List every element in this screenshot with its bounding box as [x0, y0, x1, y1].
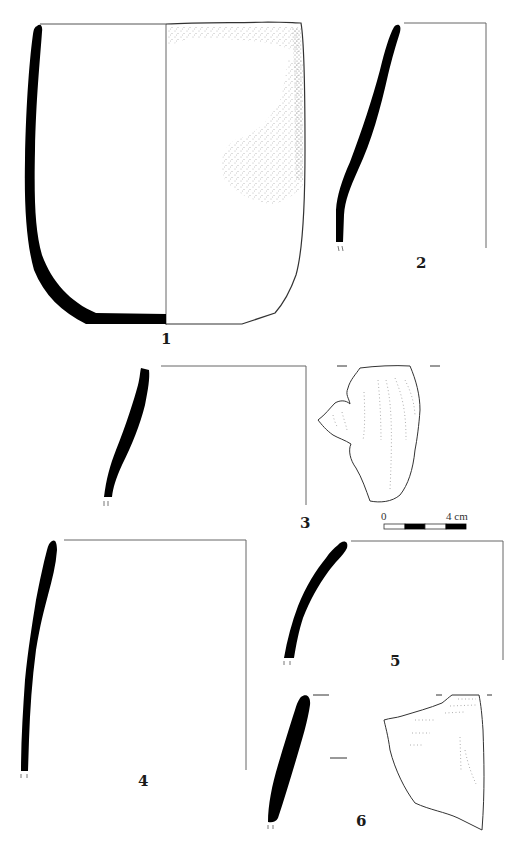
vessel-4-drawing — [21, 540, 246, 778]
vessel-1-section-profile — [25, 25, 166, 324]
vessel-5-drawing — [284, 541, 503, 665]
vessel-3-section-profile — [104, 368, 149, 497]
vessel-5-break-marks — [284, 661, 290, 665]
vessel-3-surface-lines — [333, 378, 415, 490]
vessel-6-label: 6 — [356, 812, 366, 830]
vessel-3-break-marks — [104, 501, 108, 506]
vessel-3-label: 3 — [300, 514, 310, 532]
vessel-6-break-marks — [268, 825, 273, 829]
vessel-1-drawing — [25, 22, 305, 325]
vessel-2-drawing — [336, 23, 486, 251]
scale-bar-start-label: 0 — [381, 510, 387, 522]
vessel-1-stipple-side — [222, 60, 303, 204]
pottery-plate: 1 2 — [0, 0, 520, 842]
vessel-4-label: 4 — [138, 772, 148, 790]
vessel-3-drawing — [104, 366, 440, 506]
vessel-6-drawing — [268, 695, 492, 830]
vessel-2-break-marks — [338, 246, 343, 251]
vessel-2-label: 2 — [416, 254, 426, 272]
scale-bar — [384, 524, 466, 529]
vessel-3-exterior-fragment — [318, 366, 420, 502]
vessel-1-label: 1 — [161, 330, 171, 348]
vessel-6-section-profile — [268, 695, 310, 822]
vessel-1-stipple-rim — [168, 26, 300, 55]
vessel-5-label: 5 — [390, 652, 400, 670]
scale-bar-end-label: 4 cm — [446, 510, 468, 522]
vessel-4-section-profile — [21, 540, 57, 771]
vessel-4-break-marks — [21, 774, 27, 778]
vessel-5-section-profile — [284, 542, 347, 658]
vessel-6-exterior-fragment — [384, 695, 484, 830]
vessel-2-section-profile — [336, 25, 400, 242]
vessel-6-surface-lines — [410, 699, 476, 784]
